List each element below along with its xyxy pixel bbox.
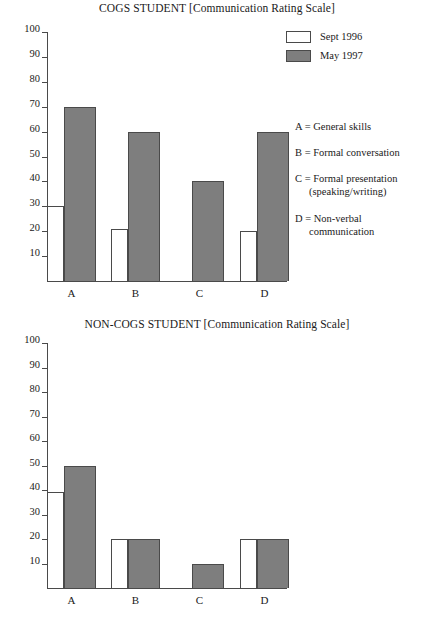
chart-cogs-student: COGS STUDENT [Communication Rating Scale… [0,0,434,312]
bar-may-1997-non-cogs-C [192,564,224,589]
bar-sept-1996-cogs-D [240,231,257,281]
tick-mark [42,490,47,491]
bar-may-1997-cogs-D [257,132,289,281]
key-item-d-line2: communication [295,225,434,238]
legend: Sept 1996 May 1997 [286,30,432,68]
tick-label: 70 [30,99,41,110]
category-key: A = General skills B = Formal conversati… [295,120,434,251]
tick-label: 10 [30,556,41,567]
tick-mark [42,343,47,344]
bar-may-1997-cogs-C [192,181,224,281]
key-item-b: B = Formal conversation [295,146,434,159]
chart-title-non-cogs: NON-COGS STUDENT [Communication Rating S… [0,318,434,330]
tick-label: 60 [30,433,41,444]
sept-1996-swatch [286,31,311,43]
x-axis-label-non-cogs-A: A [47,594,96,606]
tick-label: 90 [30,49,41,60]
tick-mark [42,57,47,58]
tick-label: 40 [30,173,41,184]
tick-label: 80 [30,74,41,85]
bar-sept-1996-cogs-B [111,229,128,281]
bar-sept-1996-non-cogs-A [47,492,64,588]
bar-sept-1996-cogs-A [47,206,64,281]
tick-label: 30 [30,198,41,209]
tick-mark [42,32,47,33]
tick-label: 70 [30,409,41,420]
tick-mark [42,157,47,158]
tick-label: 50 [30,458,41,469]
bar-may-1997-non-cogs-D [257,539,289,588]
tick-mark [42,132,47,133]
x-axis-label-non-cogs-B: B [111,594,160,606]
tick-mark [42,441,47,442]
tick-mark [42,181,47,182]
key-item-d-line1: D = Non-verbal [295,213,362,224]
bar-may-1997-cogs-A [64,107,96,281]
may-1997-swatch [286,50,311,62]
tick-label: 90 [30,360,41,371]
x-axis-line-non-cogs [47,588,287,589]
bar-sept-1996-non-cogs-D [240,539,257,588]
x-axis-label-non-cogs-C: C [175,594,224,606]
tick-mark [42,392,47,393]
key-item-a-line1: A = General skills [295,121,371,132]
tick-label: 80 [30,384,41,395]
tick-mark [42,82,47,83]
x-axis-label-cogs-B: B [111,287,160,299]
tick-label: 20 [30,531,41,542]
chart-title-cogs: COGS STUDENT [Communication Rating Scale… [0,2,434,14]
key-item-c: C = Formal presentation (speaking/writin… [295,172,434,198]
legend-label-may: May 1997 [320,50,363,61]
chart-non-cogs-student: NON-COGS STUDENT [Communication Rating S… [0,312,434,624]
legend-entry: May 1997 [286,49,432,62]
plot-area-non-cogs: 102030405060708090100ABCD [47,343,287,588]
tick-label: 40 [30,482,41,493]
tick-label: 100 [24,335,40,346]
legend-label-sept: Sept 1996 [320,31,362,42]
tick-label: 100 [24,24,40,35]
x-axis-label-non-cogs-D: D [240,594,289,606]
tick-mark [42,107,47,108]
tick-label: 50 [30,149,41,160]
tick-mark [42,368,47,369]
bar-sept-1996-non-cogs-B [111,539,128,588]
key-item-c-line1: C = Formal presentation [295,173,397,184]
plot-area-cogs: 102030405060708090100ABCD [47,32,287,281]
tick-label: 10 [30,248,41,259]
key-item-c-line2: (speaking/writing) [295,185,434,198]
tick-label: 30 [30,507,41,518]
tick-label: 20 [30,223,41,234]
tick-mark [42,466,47,467]
x-axis-label-cogs-C: C [175,287,224,299]
key-item-a: A = General skills [295,120,434,133]
bar-may-1997-cogs-B [128,132,160,281]
tick-mark [42,417,47,418]
x-axis-label-cogs-A: A [47,287,96,299]
legend-entry: Sept 1996 [286,30,432,43]
bar-may-1997-non-cogs-B [128,539,160,588]
x-axis-label-cogs-D: D [240,287,289,299]
bar-may-1997-non-cogs-A [64,466,96,589]
x-axis-line-cogs [47,281,287,282]
key-item-d: D = Non-verbal communication [295,212,434,238]
tick-label: 60 [30,124,41,135]
key-item-b-line1: B = Formal conversation [295,147,400,158]
